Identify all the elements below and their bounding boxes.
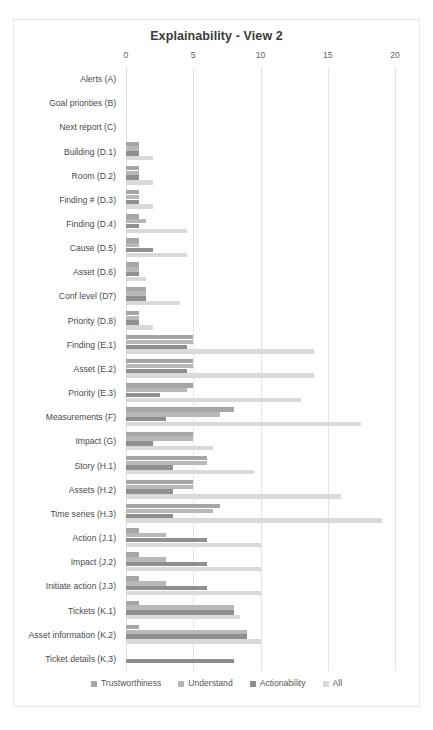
bar-row <box>126 623 395 647</box>
bar-all <box>126 639 261 643</box>
bar-row <box>126 405 395 429</box>
bar-row <box>126 115 395 139</box>
bar-trustworthiness <box>126 335 193 339</box>
bar-understand <box>126 605 234 609</box>
category-label: Initiate action (J.3) <box>14 574 122 598</box>
bar-actionability <box>126 272 139 276</box>
bar-understand <box>126 171 139 175</box>
x-axis-tick-labels: 05101520 <box>126 50 395 66</box>
bar-row <box>126 164 395 188</box>
bar-row <box>126 139 395 163</box>
bar-understand <box>126 340 193 344</box>
chart-title: Explainability - View 2 <box>14 29 419 43</box>
bar-all <box>126 180 153 184</box>
category-label: Asset information (K.2) <box>14 623 122 647</box>
bar-trustworthiness <box>126 142 139 146</box>
category-label: Finding # (D.3) <box>14 188 122 212</box>
category-label: Priority (D.8) <box>14 309 122 333</box>
bar-actionability <box>126 465 173 469</box>
bar-actionability <box>126 369 187 373</box>
category-label: Cause (D.5) <box>14 236 122 260</box>
category-label: Impact (G) <box>14 429 122 453</box>
bar-understand <box>126 243 139 247</box>
bar-trustworthiness <box>126 359 193 363</box>
y-axis-category-labels: Alerts (A)Goal priorities (B)Next report… <box>14 67 122 671</box>
bar-row <box>126 454 395 478</box>
bar-understand <box>126 364 193 368</box>
category-label: Alerts (A) <box>14 67 122 91</box>
bar-actionability <box>126 296 146 300</box>
bar-all <box>126 204 153 208</box>
category-label: Story (H.1) <box>14 454 122 478</box>
bar-row <box>126 478 395 502</box>
category-label: Measurements (F) <box>14 405 122 429</box>
legend-item[interactable]: Trustworthiness <box>91 679 161 688</box>
bar-row <box>126 188 395 212</box>
bar-all <box>126 446 213 450</box>
bar-trustworthiness <box>126 238 139 242</box>
legend-swatch-icon <box>323 681 329 687</box>
bar-trustworthiness <box>126 504 220 508</box>
bar-understand <box>126 509 213 513</box>
bar-trustworthiness <box>126 576 139 580</box>
bar-actionability <box>126 634 247 638</box>
bar-understand <box>126 267 139 271</box>
x-axis-tick-10: 10 <box>256 50 266 60</box>
bar-trustworthiness <box>126 190 139 194</box>
bar-trustworthiness <box>126 383 193 387</box>
category-label: Priority (E.3) <box>14 381 122 405</box>
legend-label: Actionability <box>260 679 306 688</box>
bar-all <box>126 156 153 160</box>
category-label: Next report (C) <box>14 115 122 139</box>
plot-area <box>126 67 395 671</box>
bar-actionability <box>126 393 160 397</box>
category-label: Goal priorities (B) <box>14 91 122 115</box>
bar-understand <box>126 630 247 634</box>
bar-actionability <box>126 610 234 614</box>
bar-understand <box>126 219 146 223</box>
x-axis-tick-0: 0 <box>124 50 129 60</box>
category-label: Room (D.2) <box>14 164 122 188</box>
bar-actionability <box>126 224 139 228</box>
bar-row <box>126 574 395 598</box>
x-axis-tick-15: 15 <box>323 50 333 60</box>
bar-actionability <box>126 175 139 179</box>
bar-actionability <box>126 441 153 445</box>
bar-understand <box>126 485 193 489</box>
bar-actionability <box>126 320 139 324</box>
bar-all <box>126 615 240 619</box>
bar-understand <box>126 195 139 199</box>
bar-actionability <box>126 417 166 421</box>
bar-rows <box>126 67 395 671</box>
bar-row <box>126 260 395 284</box>
bar-trustworthiness <box>126 528 139 532</box>
category-label: Ticket details (K.3) <box>14 647 122 671</box>
bar-trustworthiness <box>126 407 234 411</box>
bar-trustworthiness <box>126 552 139 556</box>
category-label: Building (D.1) <box>14 139 122 163</box>
bar-trustworthiness <box>126 625 139 629</box>
category-label: Asset (E.2) <box>14 357 122 381</box>
bar-actionability <box>126 345 187 349</box>
bar-understand <box>126 316 139 320</box>
bar-understand <box>126 436 193 440</box>
bar-trustworthiness <box>126 166 139 170</box>
category-label: Impact (J.2) <box>14 550 122 574</box>
legend-swatch-icon <box>91 681 97 687</box>
legend-item[interactable]: Understand <box>178 679 232 688</box>
bar-trustworthiness <box>126 456 207 460</box>
chart-card: Explainability - View 2 05101520 Alerts … <box>13 19 420 707</box>
bar-actionability <box>126 562 207 566</box>
bar-row <box>126 236 395 260</box>
bar-all <box>126 543 261 547</box>
bar-row <box>126 309 395 333</box>
legend-item[interactable]: Actionability <box>250 679 306 688</box>
bar-row <box>126 502 395 526</box>
bar-row <box>126 550 395 574</box>
bar-row <box>126 67 395 91</box>
bar-all <box>126 494 341 498</box>
category-label: Conf level (D7) <box>14 284 122 308</box>
legend-label: Understand <box>188 679 232 688</box>
bar-understand <box>126 412 220 416</box>
legend-item[interactable]: All <box>323 679 343 688</box>
